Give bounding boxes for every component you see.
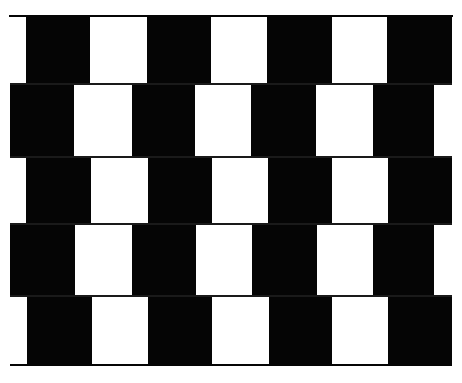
mortar-line: [10, 223, 452, 225]
light-tile: [212, 296, 269, 364]
dark-tile: [387, 16, 452, 84]
dark-tile: [148, 296, 212, 364]
dark-tile: [267, 16, 332, 84]
dark-tile: [132, 84, 195, 157]
light-tile: [211, 16, 267, 84]
light-tile: [75, 224, 132, 296]
mortar-line: [10, 83, 452, 85]
dark-tile: [252, 224, 317, 296]
light-tile: [196, 224, 252, 296]
dark-tile: [373, 224, 434, 296]
light-tile: [212, 157, 268, 224]
dark-tile: [27, 296, 92, 364]
mortar-line: [10, 156, 452, 158]
dark-tile: [26, 16, 90, 84]
light-tile: [92, 296, 148, 364]
light-tile: [434, 224, 462, 296]
cafe-wall-illusion: [0, 0, 462, 383]
light-tile: [434, 84, 462, 157]
dark-tile: [388, 296, 452, 364]
dark-tile: [132, 224, 196, 296]
dark-tile: [268, 157, 332, 224]
light-tile: [91, 157, 148, 224]
light-tile: [316, 84, 373, 157]
light-tile: [74, 84, 132, 157]
light-tile: [90, 16, 147, 84]
dark-tile: [10, 84, 74, 157]
dark-tile: [10, 224, 75, 296]
dark-tile: [251, 84, 316, 157]
bottom-border-line: [10, 364, 452, 366]
dark-tile: [388, 157, 452, 224]
dark-tile: [148, 157, 212, 224]
light-tile: [332, 157, 388, 224]
light-tile: [332, 296, 388, 364]
dark-tile: [373, 84, 434, 157]
dark-tile: [147, 16, 211, 84]
top-border-line: [9, 15, 453, 17]
dark-tile: [26, 157, 91, 224]
dark-tile: [269, 296, 332, 364]
light-tile: [195, 84, 251, 157]
light-tile: [317, 224, 373, 296]
mortar-line: [10, 295, 452, 297]
light-tile: [332, 16, 387, 84]
